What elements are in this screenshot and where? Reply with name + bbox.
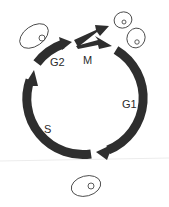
label-s: S	[44, 123, 51, 135]
cell-membrane	[124, 26, 148, 51]
arc-s	[27, 80, 91, 155]
label-m: M	[83, 54, 92, 66]
cell-nucleus	[122, 20, 126, 24]
cell-nucleus	[135, 40, 139, 44]
cell-nucleus	[39, 35, 45, 41]
cell-g1-start	[69, 172, 103, 199]
label-g2: G2	[50, 56, 65, 68]
label-g1: G1	[122, 98, 137, 110]
cell-nucleus	[88, 183, 94, 189]
cell-cycle-diagram: G2 M G1 S	[0, 0, 169, 207]
cell-daughter-2	[124, 26, 148, 51]
arrowhead-s	[24, 70, 38, 86]
cell-membrane	[69, 172, 103, 199]
cell-daughter-1	[112, 9, 134, 30]
